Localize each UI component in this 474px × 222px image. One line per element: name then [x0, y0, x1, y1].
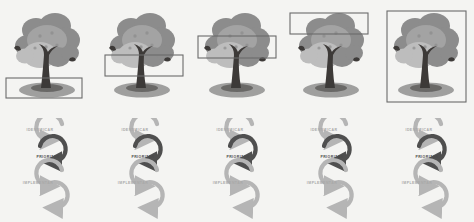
panel-4: IDENTIFICAR PRIORIZAR IMPLEMENTAR — [284, 0, 379, 222]
cycle-stage-label-1: IDENTIFICAR — [26, 128, 53, 132]
cycle-stage-label-3: IMPLEMENTAR — [212, 181, 242, 185]
tree-illustration-2 — [95, 0, 190, 118]
cycle-stage-label-3: IMPLEMENTAR — [118, 181, 148, 185]
tree-illustration-4 — [284, 0, 379, 118]
cycle-stage-label-1: IDENTIFICAR — [406, 128, 433, 132]
cycle-diagram-3: IDENTIFICAR PRIORIZAR IMPLEMENTAR — [190, 118, 285, 222]
figure-canvas: IDENTIFICAR PRIORIZAR IMPLEMENTAR — [0, 0, 474, 222]
cycle-stage-label-3: IMPLEMENTAR — [23, 181, 53, 185]
selection-rectangle-2[interactable] — [105, 55, 183, 76]
panel-5: IDENTIFICAR PRIORIZAR IMPLEMENTAR — [379, 0, 474, 222]
selection-rectangle-5[interactable] — [387, 11, 466, 102]
cycle-stage-label-2: PRIORIZAR — [321, 155, 344, 159]
tree-illustration-5 — [379, 0, 474, 118]
panel-1: IDENTIFICAR PRIORIZAR IMPLEMENTAR — [0, 0, 95, 222]
cycle-diagram-4: IDENTIFICAR PRIORIZAR IMPLEMENTAR — [284, 118, 379, 222]
cycle-stage-label-2: PRIORIZAR — [36, 155, 59, 159]
cycle-stage-label-1: IDENTIFICAR — [216, 128, 243, 132]
cycle-stage-label-3: IMPLEMENTAR — [307, 181, 337, 185]
cycle-stage-label-1: IDENTIFICAR — [311, 128, 338, 132]
tree-illustration-3 — [190, 0, 285, 118]
cycle-diagram-1: IDENTIFICAR PRIORIZAR IMPLEMENTAR — [0, 118, 95, 222]
tree-illustration-1 — [0, 0, 95, 118]
cycle-diagram-2: IDENTIFICAR PRIORIZAR IMPLEMENTAR — [95, 118, 190, 222]
cycle-stage-label-2: PRIORIZAR — [226, 155, 249, 159]
selection-rectangle-1[interactable] — [6, 78, 82, 98]
cycle-stage-label-2: PRIORIZAR — [131, 155, 154, 159]
cycle-stage-label-2: PRIORIZAR — [416, 155, 439, 159]
panel-2: IDENTIFICAR PRIORIZAR IMPLEMENTAR — [95, 0, 190, 222]
selection-rectangle-3[interactable] — [198, 36, 276, 58]
cycle-diagram-5: IDENTIFICAR PRIORIZAR IMPLEMENTAR — [379, 118, 474, 222]
cycle-stage-label-3: IMPLEMENTAR — [402, 181, 432, 185]
panel-3: IDENTIFICAR PRIORIZAR IMPLEMENTAR — [190, 0, 285, 222]
cycle-stage-label-1: IDENTIFICAR — [121, 128, 148, 132]
selection-rectangle-4[interactable] — [290, 13, 368, 34]
